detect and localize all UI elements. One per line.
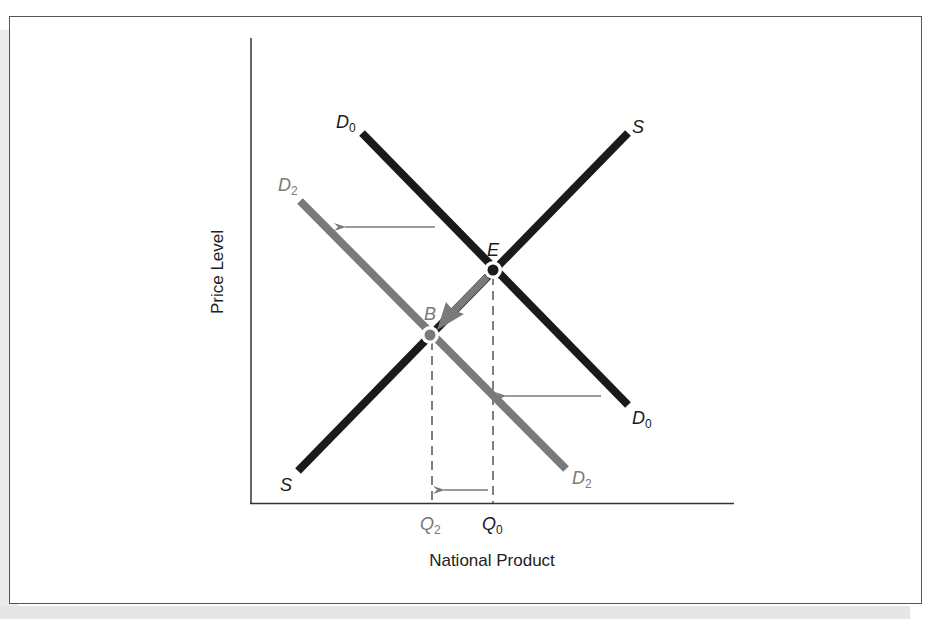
point-b [425, 330, 436, 341]
point-e [488, 265, 499, 276]
x-axis-title: National Product [429, 551, 555, 570]
label-d0-top: D0 [336, 112, 356, 135]
label-d2-top: D2 [278, 175, 298, 198]
tick-label-q0: Q0 [482, 514, 503, 537]
label-d0-bottom: D0 [632, 408, 652, 431]
label-s-bottom: S [280, 475, 292, 495]
label-s-top: S [632, 117, 644, 137]
y-axis-title: Price Level [208, 230, 227, 314]
label-e: E [487, 240, 500, 260]
movement-arrow-e-to-b [437, 277, 487, 330]
ad-as-diagram: D0 D0 D2 D2 S S E B Q2 Q0 National Produ… [0, 0, 933, 619]
tick-label-q2: Q2 [420, 514, 441, 537]
label-d2-bottom: D2 [572, 468, 592, 491]
label-b: B [424, 304, 436, 324]
